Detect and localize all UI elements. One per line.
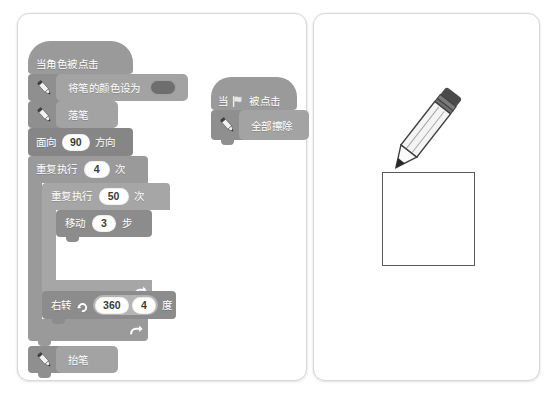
point-in-direction-block[interactable]: 面向 90 方向 bbox=[28, 128, 133, 156]
when-flag-clicked-block[interactable]: 当 被点击 bbox=[211, 77, 297, 110]
script-canvas-left: 当角色被点击 bbox=[17, 13, 307, 381]
pen-down-block[interactable]: 落笔 bbox=[28, 101, 118, 128]
dividend-input[interactable]: 360 bbox=[95, 297, 129, 314]
pen-icon bbox=[217, 115, 238, 139]
turn-right-icon bbox=[76, 299, 89, 312]
stage-illustration-right bbox=[313, 13, 540, 381]
when-sprite-clicked-label: 当角色被点击 bbox=[36, 59, 98, 70]
point-direction-post-label: 方向 bbox=[95, 137, 116, 148]
set-pen-color-block[interactable]: 将笔的颜色设为 bbox=[28, 74, 188, 101]
when-flag-post-label: 被点击 bbox=[249, 96, 280, 107]
pen-up-block[interactable]: 抬笔 bbox=[28, 346, 118, 373]
loop-arrow-icon bbox=[128, 322, 144, 342]
pencil-illustration bbox=[370, 77, 480, 187]
direction-value-input[interactable]: 90 bbox=[62, 134, 90, 151]
worksheet-screenshot: 当角色被点击 bbox=[0, 0, 553, 394]
pen-color-swatch[interactable] bbox=[150, 80, 176, 95]
repeat-outer-post-label: 次 bbox=[115, 164, 125, 175]
pen-icon bbox=[34, 105, 55, 129]
pen-icon bbox=[34, 78, 55, 102]
point-direction-pre-label: 面向 bbox=[36, 137, 57, 148]
move-steps-value-input[interactable]: 3 bbox=[92, 215, 116, 232]
set-pen-color-label: 将笔的颜色设为 bbox=[68, 83, 141, 94]
erase-all-block[interactable]: 全部擦除 bbox=[211, 110, 309, 140]
pen-icon bbox=[34, 350, 55, 374]
turn-right-block[interactable]: 右转 360 4 bbox=[42, 291, 176, 319]
move-steps-pre-label: 移动 bbox=[65, 218, 86, 229]
repeat-inner-post-label: 次 bbox=[134, 191, 144, 202]
repeat-inner-pre-label: 重复执行 bbox=[51, 191, 93, 202]
repeat-outer-count-input[interactable]: 4 bbox=[84, 161, 110, 178]
division-operator-block[interactable]: 360 4 bbox=[93, 295, 158, 315]
turn-right-pre-label: 右转 bbox=[51, 300, 72, 311]
repeat-inner-count-input[interactable]: 50 bbox=[99, 188, 129, 205]
when-sprite-clicked-block[interactable]: 当角色被点击 bbox=[28, 41, 133, 74]
move-steps-post-label: 步 bbox=[122, 218, 132, 229]
repeat-outer-pre-label: 重复执行 bbox=[36, 164, 78, 175]
repeat-inner-block[interactable]: 重复执行 50 次 bbox=[42, 183, 170, 308]
pen-down-label: 落笔 bbox=[68, 110, 89, 121]
green-flag-icon bbox=[232, 95, 245, 108]
move-steps-block[interactable]: 移动 3 步 bbox=[56, 210, 152, 237]
divisor-input[interactable]: 4 bbox=[132, 297, 156, 314]
turn-right-post-label: 度 bbox=[162, 300, 172, 311]
when-flag-pre-label: 当 bbox=[218, 96, 228, 107]
erase-all-label: 全部擦除 bbox=[251, 121, 293, 132]
pen-up-label: 抬笔 bbox=[68, 355, 89, 366]
